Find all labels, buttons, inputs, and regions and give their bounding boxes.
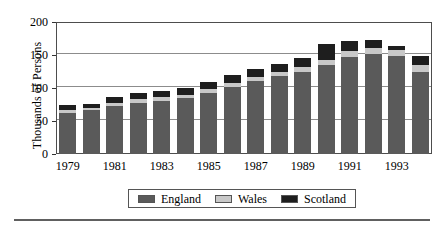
bar-segment-scotland-1985[interactable]	[200, 82, 217, 89]
y-tick-label-150: 150	[8, 49, 48, 61]
bar-segment-wales-1983[interactable]	[153, 97, 170, 100]
bar-segment-scotland-1982[interactable]	[130, 93, 147, 100]
bottom-divider	[14, 219, 430, 221]
bar-1986[interactable]	[224, 22, 241, 154]
bar-segment-england-1994[interactable]	[412, 72, 429, 154]
bar-1983[interactable]	[153, 22, 170, 154]
bar-1988[interactable]	[271, 22, 288, 154]
bar-1984[interactable]	[177, 22, 194, 154]
bar-segment-england-1983[interactable]	[153, 101, 170, 154]
bar-1991[interactable]	[341, 22, 358, 154]
bar-segment-wales-1979[interactable]	[59, 110, 76, 113]
y-tick-mark-0	[52, 154, 56, 155]
legend-label-wales: Wales	[238, 193, 267, 205]
x-tick-label-1987: 1987	[234, 160, 278, 172]
bar-segment-wales-1981[interactable]	[106, 103, 123, 106]
bar-segment-wales-1988[interactable]	[271, 72, 288, 76]
bar-segment-england-1990[interactable]	[318, 65, 335, 154]
bar-1992[interactable]	[365, 22, 382, 154]
bar-segment-scotland-1987[interactable]	[247, 69, 264, 78]
stacked-bar-chart-figure: Thousands of Persons 050100150200 197919…	[0, 0, 444, 229]
chart-legend: EnglandWalesScotland	[128, 189, 356, 208]
bar-1990[interactable]	[318, 22, 335, 154]
x-tick-label-1991: 1991	[328, 160, 372, 172]
x-tick-label-1981: 1981	[93, 160, 137, 172]
bar-segment-wales-1994[interactable]	[412, 65, 429, 72]
bar-segment-wales-1986[interactable]	[224, 83, 241, 87]
bar-segment-england-1989[interactable]	[294, 72, 311, 155]
bar-segment-england-1988[interactable]	[271, 76, 288, 154]
bar-segment-scotland-1986[interactable]	[224, 75, 241, 84]
bar-segment-england-1985[interactable]	[200, 93, 217, 154]
bar-segment-england-1992[interactable]	[365, 54, 382, 154]
bar-segment-scotland-1992[interactable]	[365, 40, 382, 48]
legend-label-england: England	[161, 193, 201, 205]
bar-1987[interactable]	[247, 22, 264, 154]
legend-swatch-scotland	[281, 195, 298, 203]
bar-segment-scotland-1994[interactable]	[412, 56, 429, 65]
x-tick-label-1979: 1979	[46, 160, 90, 172]
bar-segment-england-1982[interactable]	[130, 103, 147, 154]
bar-segment-scotland-1991[interactable]	[341, 41, 358, 52]
bar-1985[interactable]	[200, 22, 217, 154]
y-tick-label-50: 50	[8, 115, 48, 127]
legend-swatch-england	[138, 195, 155, 203]
bar-segment-england-1981[interactable]	[106, 106, 123, 154]
bar-segment-scotland-1984[interactable]	[177, 88, 194, 95]
bar-1994[interactable]	[412, 22, 429, 154]
bar-segment-england-1980[interactable]	[83, 110, 100, 154]
bar-1989[interactable]	[294, 22, 311, 154]
bar-segment-wales-1980[interactable]	[83, 108, 100, 111]
bar-segment-wales-1984[interactable]	[177, 95, 194, 98]
x-tick-label-1989: 1989	[281, 160, 325, 172]
bar-segment-wales-1992[interactable]	[365, 48, 382, 54]
bar-segment-wales-1993[interactable]	[388, 50, 405, 57]
bar-segment-wales-1989[interactable]	[294, 67, 311, 72]
bar-segment-scotland-1993[interactable]	[388, 46, 405, 49]
legend-swatch-wales	[215, 195, 232, 203]
legend-item-wales[interactable]: Wales	[215, 193, 267, 205]
bar-segment-scotland-1979[interactable]	[59, 105, 76, 110]
bar-segment-scotland-1981[interactable]	[106, 97, 123, 103]
bars-layer	[56, 22, 432, 154]
y-tick-label-200: 200	[8, 16, 48, 28]
x-tick-label-1985: 1985	[187, 160, 231, 172]
bar-segment-scotland-1988[interactable]	[271, 64, 288, 72]
legend-item-scotland[interactable]: Scotland	[281, 193, 346, 205]
bar-segment-england-1993[interactable]	[388, 56, 405, 154]
bar-segment-england-1987[interactable]	[247, 81, 264, 154]
bar-1979[interactable]	[59, 22, 76, 154]
bar-segment-wales-1985[interactable]	[200, 89, 217, 92]
bar-segment-wales-1987[interactable]	[247, 77, 264, 81]
bar-segment-scotland-1989[interactable]	[294, 58, 311, 67]
bar-1981[interactable]	[106, 22, 123, 154]
x-tick-label-1983: 1983	[140, 160, 184, 172]
bar-segment-england-1991[interactable]	[341, 57, 358, 154]
x-tick-label-1993: 1993	[375, 160, 419, 172]
legend-label-scotland: Scotland	[304, 193, 346, 205]
bar-segment-england-1986[interactable]	[224, 87, 241, 154]
bar-segment-scotland-1983[interactable]	[153, 91, 170, 98]
bar-1980[interactable]	[83, 22, 100, 154]
bar-segment-wales-1991[interactable]	[341, 51, 358, 57]
y-tick-label-0: 0	[8, 148, 48, 160]
bar-segment-wales-1982[interactable]	[130, 99, 147, 102]
bar-1993[interactable]	[388, 22, 405, 154]
bar-segment-england-1979[interactable]	[59, 113, 76, 154]
legend-item-england[interactable]: England	[138, 193, 201, 205]
bar-1982[interactable]	[130, 22, 147, 154]
y-tick-label-100: 100	[8, 82, 48, 94]
bar-segment-scotland-1980[interactable]	[83, 104, 100, 108]
bar-segment-scotland-1990[interactable]	[318, 44, 335, 60]
bar-segment-england-1984[interactable]	[177, 98, 194, 154]
bar-segment-wales-1990[interactable]	[318, 60, 335, 65]
